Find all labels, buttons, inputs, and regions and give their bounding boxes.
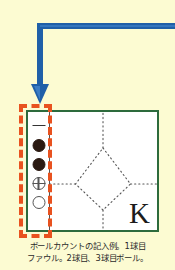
figure-caption: ボールカウントの記入例。1球目 ファウル。2球目、3球目ボール。 bbox=[8, 241, 167, 264]
caption-line-1: ボールカウントの記入例。1球目 bbox=[8, 241, 167, 253]
diamond-field: K bbox=[50, 112, 157, 230]
caption-line-2: ファウル。2球目、3球目ボール。 bbox=[8, 253, 167, 265]
ball-count-highlight bbox=[19, 104, 52, 238]
figure-canvas: K ボールカウントの記入例。1球目 ファウル。2球目、3球目ボール。 bbox=[0, 0, 175, 270]
result-letter: K bbox=[129, 199, 150, 228]
